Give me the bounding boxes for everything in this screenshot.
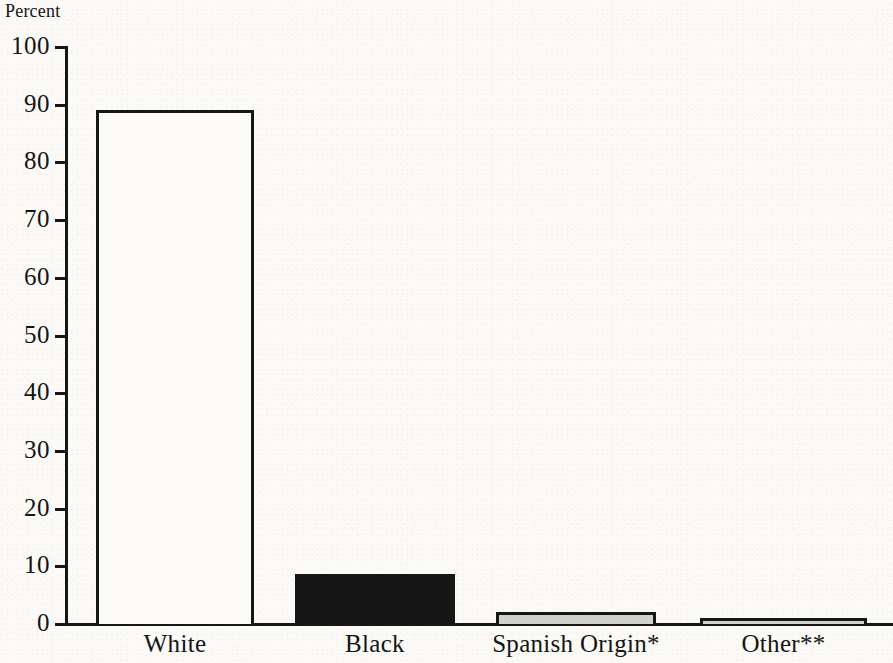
y-axis-tick-label: 80 xyxy=(2,148,50,173)
y-axis-tick-label-wrap: 70 xyxy=(0,206,50,231)
y-axis-tick-label: 60 xyxy=(2,264,50,289)
y-axis-tick xyxy=(55,335,67,338)
bar-chart: Percent 0102030405060708090100 WhiteBlac… xyxy=(0,0,893,663)
y-axis-tick-label-wrap: 60 xyxy=(0,264,50,289)
y-axis-tick xyxy=(55,46,67,49)
y-axis-tick-label-wrap: 100 xyxy=(0,33,50,58)
y-axis-tick-label-wrap: 20 xyxy=(0,495,50,520)
y-axis-tick-label: 30 xyxy=(2,437,50,462)
y-axis-tick-label: 40 xyxy=(2,379,50,404)
y-axis-tick-label-wrap: 30 xyxy=(0,437,50,462)
plot-area: 0102030405060708090100 WhiteBlackSpanish… xyxy=(0,0,893,663)
bar-black xyxy=(295,574,455,624)
y-axis-tick xyxy=(55,219,67,222)
y-axis-tick xyxy=(55,565,67,568)
y-axis-tick-label-wrap: 40 xyxy=(0,379,50,404)
bar-white xyxy=(96,110,254,624)
y-axis-tick-label: 50 xyxy=(2,322,50,347)
y-axis-tick-label: 90 xyxy=(2,91,50,116)
y-axis-tick-label-wrap: 50 xyxy=(0,322,50,347)
y-axis-tick xyxy=(55,161,67,164)
y-axis-tick-label: 20 xyxy=(2,495,50,520)
y-axis-tick xyxy=(55,392,67,395)
y-axis-tick xyxy=(55,277,67,280)
y-axis-tick-label-wrap: 90 xyxy=(0,91,50,116)
y-axis-tick xyxy=(55,508,67,511)
y-axis-tick-label: 10 xyxy=(2,552,50,577)
y-axis-tick-label: 100 xyxy=(2,33,50,58)
y-axis-tick xyxy=(55,623,67,626)
y-axis-tick-label: 70 xyxy=(2,206,50,231)
bar-spanish-origin xyxy=(496,612,656,624)
x-axis-label-other: Other** xyxy=(630,630,893,658)
y-axis-tick-label-wrap: 80 xyxy=(0,148,50,173)
y-axis-tick-label-wrap: 10 xyxy=(0,552,50,577)
bar-other xyxy=(700,618,867,624)
y-axis-tick xyxy=(55,104,67,107)
y-axis-tick xyxy=(55,450,67,453)
